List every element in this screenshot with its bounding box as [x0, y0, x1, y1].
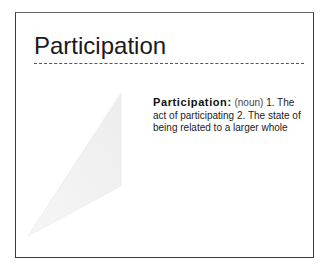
definition-text: Participation: (noun) 1. The act of part…: [153, 96, 303, 135]
slide: Participation Participation: (noun) 1. T…: [15, 12, 314, 258]
title-divider: [34, 63, 304, 64]
sense-1-number: 1.: [266, 97, 274, 108]
part-of-speech: (noun): [234, 97, 263, 108]
sense-2-number: 2.: [237, 110, 245, 121]
slide-title: Participation: [34, 32, 166, 60]
definition-term: Participation:: [153, 96, 232, 108]
triangle-illustration-icon: [26, 91, 136, 256]
